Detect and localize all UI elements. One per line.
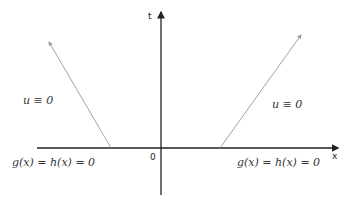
origin-label: 0 [150, 153, 156, 162]
x-axis-label: x [332, 152, 337, 161]
right-characteristic-line [220, 35, 301, 148]
t-axis-label: t [148, 12, 152, 21]
left-characteristic-line [49, 42, 111, 148]
right-boundary-label: g(x) = h(x) = 0 [237, 157, 320, 168]
diagram-canvas: t x 0 u ≡ 0 u ≡ 0 g(x) = h(x) = 0 g(x) =… [0, 0, 348, 207]
left-u-label: u ≡ 0 [23, 95, 53, 106]
left-boundary-label: g(x) = h(x) = 0 [12, 157, 95, 168]
right-u-label: u ≡ 0 [272, 99, 302, 110]
